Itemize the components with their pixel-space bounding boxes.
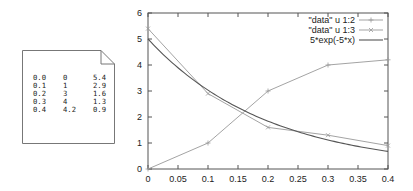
data-point-cross [206, 92, 210, 96]
x-tick-label: 0 [145, 174, 150, 184]
data-point-plus [386, 57, 391, 62]
legend-label: "data" u 1:2 [309, 15, 355, 25]
x-tick-label: 0.15 [229, 174, 247, 184]
x-tick-label: 0.05 [169, 174, 187, 184]
x-tick-label: 0.1 [202, 174, 215, 184]
x-tick-label: 0.4 [382, 174, 395, 184]
y-tick-label: 5 [137, 34, 142, 44]
legend-label: 5*exp(-5*x) [310, 35, 355, 45]
data-point-plus [369, 18, 374, 23]
x-tick-label: 0.3 [322, 174, 335, 184]
line-chart: 00.050.10.150.20.250.30.350.40123456"dat… [0, 0, 413, 191]
y-tick-label: 6 [137, 8, 142, 18]
data-point-plus [146, 167, 151, 172]
y-tick-label: 0 [137, 164, 142, 174]
series-line-2 [148, 29, 388, 146]
legend-label: "data" u 1:3 [309, 25, 355, 35]
series-line-1 [148, 60, 388, 169]
series-line-3 [148, 39, 388, 151]
x-tick-label: 0.25 [289, 174, 307, 184]
data-point-plus [326, 63, 331, 68]
y-tick-label: 3 [137, 86, 142, 96]
x-tick-label: 0.2 [262, 174, 275, 184]
x-tick-label: 0.35 [349, 174, 367, 184]
y-tick-label: 2 [137, 112, 142, 122]
y-tick-label: 4 [137, 60, 142, 70]
y-tick-label: 1 [137, 138, 142, 148]
